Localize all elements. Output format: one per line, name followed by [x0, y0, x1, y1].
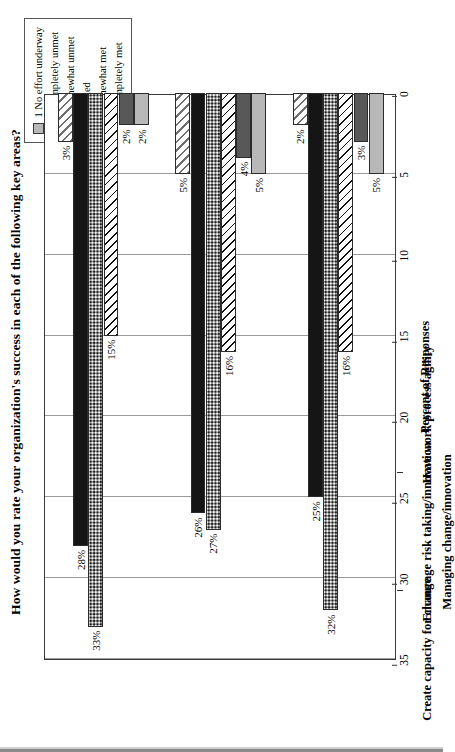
axis-tick-label: 10 [398, 250, 410, 262]
axis-tick-label: 30 [398, 573, 410, 585]
plot-area: 5%3%16%32%25%2%5%4%16%27%26%5%2%2%15%33%… [44, 94, 396, 660]
axis-tick-label: 5 [398, 172, 410, 178]
bar-2 [354, 93, 369, 142]
legend-swatch-1-icon [33, 124, 44, 135]
bar-value-label: 2% [120, 129, 132, 155]
bar-5 [73, 93, 88, 546]
axis-tick-mark [392, 96, 397, 97]
chart-title: How would you rate your organization's s… [8, 52, 24, 692]
bar-value-label: 16% [223, 356, 235, 382]
bar-6 [293, 93, 308, 125]
category-label: Create capacity for change [420, 578, 435, 721]
bar-4 [206, 93, 221, 530]
bar-value-label: 3% [355, 146, 367, 172]
gridline [45, 658, 395, 659]
page-scan-edge-light [0, 747, 443, 749]
bar-value-label: 3% [60, 146, 72, 172]
bar-value-label: 5% [253, 178, 265, 204]
axis-tick-mark [392, 665, 397, 666]
axis-tick-label: 35 [398, 654, 410, 666]
value-axis-ticks: 05101520253035 [398, 94, 420, 660]
bar-1 [369, 93, 384, 174]
bar-value-label: 15% [105, 340, 117, 366]
bar-value-label: 25% [310, 501, 322, 527]
axis-tick-mark [392, 503, 397, 504]
axis-tick-mark [392, 177, 397, 178]
bar-3 [221, 93, 236, 352]
bar-2 [236, 93, 251, 158]
legend-item: 1 No effort underway [31, 27, 45, 135]
category-separator-tick [397, 472, 403, 473]
bar-value-label: 27% [207, 534, 219, 560]
bar-value-label: 26% [192, 517, 204, 543]
bar-value-label: 5% [177, 178, 189, 204]
axis-tick-mark [392, 584, 397, 585]
axis-tick-label: 0 [398, 91, 410, 97]
bar-1 [134, 93, 149, 125]
bar-5 [308, 93, 323, 497]
legend-label-1: 1 No effort underway [33, 27, 44, 118]
bar-value-label: 2% [136, 129, 148, 155]
bar-value-label: 32% [325, 615, 337, 641]
bar-6 [175, 93, 190, 174]
bar-6 [58, 93, 73, 142]
bar-value-label: 5% [370, 178, 382, 204]
axis-tick-mark [392, 341, 397, 342]
axis-tick-mark [392, 260, 397, 261]
bar-value-label: 28% [75, 550, 87, 576]
bar-1 [251, 93, 266, 174]
bar-value-label: 4% [238, 162, 250, 188]
bar-value-label: 16% [340, 356, 352, 382]
bar-2 [119, 93, 134, 125]
group-label: Managing change/innovation [440, 454, 455, 609]
bar-3 [338, 93, 353, 352]
axis-tick-label: 15 [398, 331, 410, 343]
bar-4 [88, 93, 103, 627]
bar-4 [323, 93, 338, 610]
bar-5 [191, 93, 206, 513]
bar-3 [104, 93, 119, 336]
category-separator-tick [397, 590, 403, 591]
axis-tick-label: 25 [398, 493, 410, 505]
bar-value-label: 2% [294, 129, 306, 155]
axis-tick-label: 20 [398, 412, 410, 424]
axis-tick-mark [392, 422, 397, 423]
bar-value-label: 33% [90, 631, 102, 657]
